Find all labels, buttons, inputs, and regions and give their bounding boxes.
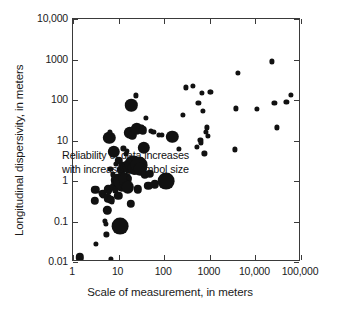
data-point (125, 99, 137, 111)
x-axis-tick (73, 255, 74, 260)
y-axis-tick (294, 100, 299, 101)
data-point (200, 90, 205, 95)
x-axis-title: Scale of measurement, in meters (0, 286, 340, 298)
y-axis-tick (73, 100, 78, 101)
y-tick-label: 0.1 (54, 215, 68, 227)
x-axis-tick (119, 255, 120, 260)
data-point (181, 113, 186, 118)
data-point (190, 84, 195, 89)
y-axis-tick (73, 141, 78, 142)
data-point (114, 192, 122, 200)
y-tick-label: 0.01 (48, 255, 68, 267)
data-point (205, 133, 210, 138)
y-tick-label: 10 (57, 134, 68, 146)
data-point (91, 196, 99, 204)
data-point (272, 100, 277, 105)
x-axis-tick (119, 19, 120, 24)
y-tick-label: 10,000 (37, 12, 68, 24)
x-axis-tick (255, 255, 256, 260)
y-axis-tick (294, 222, 299, 223)
x-axis-tick (164, 19, 165, 24)
data-point (133, 93, 138, 98)
y-axis-tick (294, 181, 299, 182)
x-axis-tick (210, 19, 211, 24)
data-point (183, 85, 188, 90)
y-tick-label: 100 (51, 93, 68, 105)
x-tick-label: 100 (155, 265, 172, 277)
data-point (127, 200, 135, 208)
data-point (110, 200, 115, 205)
data-point (93, 241, 98, 246)
data-point (202, 151, 207, 156)
y-axis-tick (73, 19, 78, 20)
data-point (208, 90, 213, 95)
annotation-line-1: Reliability of data increases (62, 148, 189, 162)
x-tick-label: 1 (69, 265, 75, 277)
data-point (284, 100, 289, 105)
x-tick-label: 10,000 (239, 265, 270, 277)
data-point (143, 115, 148, 120)
data-point (104, 232, 109, 237)
data-point (234, 106, 239, 111)
plot-frame (72, 18, 300, 261)
data-point (199, 140, 204, 145)
x-axis-tick (164, 255, 165, 260)
data-point (200, 108, 205, 113)
data-point (122, 181, 134, 193)
y-axis-tick (73, 60, 78, 61)
data-point (204, 125, 209, 130)
data-point (269, 59, 274, 64)
y-axis-tick (294, 60, 299, 61)
data-point (112, 217, 129, 234)
y-axis-tick (294, 19, 299, 20)
data-point (194, 144, 199, 149)
data-point (139, 126, 147, 134)
data-point (75, 253, 83, 260)
x-axis-tick (210, 255, 211, 260)
y-tick-label: 1000 (45, 53, 68, 65)
annotation-line-2: with increasing symbol size (62, 162, 189, 176)
data-point (196, 100, 201, 105)
x-tick-label: 100,000 (282, 265, 319, 277)
data-point (109, 256, 114, 260)
x-tick-label: 10 (112, 265, 123, 277)
y-axis-tick (294, 262, 299, 263)
y-axis-title: Longitudinal dispersivity, in meters (13, 65, 25, 236)
data-point (255, 106, 260, 111)
data-point (233, 147, 238, 152)
data-point (275, 125, 280, 130)
data-point (236, 71, 241, 76)
chart-page: 110100100010,000100,000 0.010.1110100100… (0, 0, 340, 313)
y-axis-tick (73, 222, 78, 223)
reliability-annotation: Reliability of data increases with incre… (62, 148, 189, 176)
data-point (133, 185, 141, 193)
scatter-points-layer (73, 19, 299, 260)
x-axis-tick (301, 19, 302, 24)
x-axis-tick (255, 19, 256, 24)
data-point (160, 133, 165, 138)
y-axis-tick (73, 181, 78, 182)
data-point (166, 130, 178, 142)
y-axis-tick (73, 262, 78, 263)
data-point (288, 92, 293, 97)
x-tick-label: 1000 (198, 265, 221, 277)
x-axis-tick (301, 255, 302, 260)
data-point (103, 206, 111, 214)
data-point (103, 221, 108, 226)
y-axis-tick (294, 141, 299, 142)
